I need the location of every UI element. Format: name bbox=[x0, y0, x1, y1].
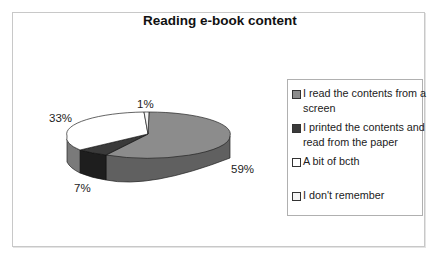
label-dont-remember: 1% bbox=[137, 98, 154, 110]
legend-item-screen: I read the contents from a screen bbox=[292, 86, 431, 116]
legend-label-screen: I read the contents from a screen bbox=[303, 87, 426, 114]
legend-item-dont-remember: I don't remember bbox=[292, 188, 431, 203]
legend-label-dont-remember: I don't remember bbox=[303, 189, 384, 201]
legend-label-both: A bit of bcth bbox=[303, 155, 359, 167]
legend-swatch-screen bbox=[292, 90, 301, 99]
legend: I read the contents from a screen I prin… bbox=[287, 79, 423, 216]
label-screen: 59% bbox=[231, 163, 254, 175]
legend-swatch-dont-remember bbox=[292, 192, 301, 201]
label-both: 33% bbox=[49, 112, 72, 124]
legend-label-printed: I printed the contents and read from the… bbox=[303, 121, 425, 148]
legend-item-printed: I printed the contents and read from the… bbox=[292, 120, 431, 150]
legend-swatch-both bbox=[292, 158, 301, 167]
label-printed: 7% bbox=[74, 182, 91, 194]
legend-item-both: A bit of bcth bbox=[292, 154, 431, 169]
legend-swatch-printed bbox=[292, 124, 301, 133]
